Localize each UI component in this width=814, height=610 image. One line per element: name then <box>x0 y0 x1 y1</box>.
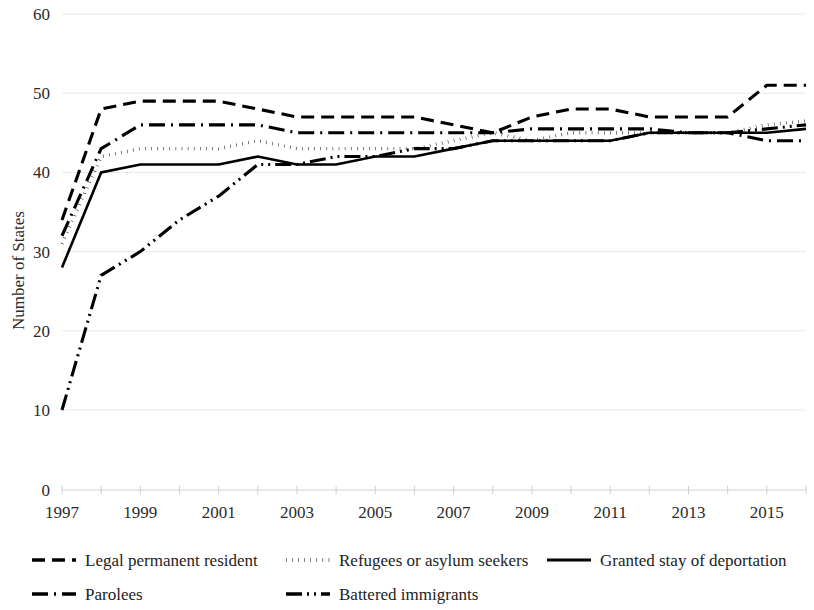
legend-label: Refugees or asylum seekers <box>339 551 528 570</box>
series-line-granted-stay-of-deportation <box>62 129 806 268</box>
gridlines <box>62 14 806 410</box>
x-tick-label-1999: 1999 <box>123 503 157 522</box>
legend-label: Parolees <box>85 585 143 604</box>
y-tick-label-0: 0 <box>42 481 51 500</box>
y-tick-label-10: 10 <box>33 401 50 420</box>
legend-item-parolees[interactable]: Parolees <box>32 585 143 604</box>
x-tick-label-2005: 2005 <box>358 503 392 522</box>
legend-item-refugees-or-asylum-seekers[interactable]: Refugees or asylum seekers <box>286 551 528 570</box>
y-tick-label-30: 30 <box>33 243 50 262</box>
legend-label: Granted stay of deportation <box>600 551 787 570</box>
legend-item-legal-permanent-resident[interactable]: Legal permanent resident <box>32 551 258 570</box>
data-series-group <box>62 85 806 410</box>
x-tick-label-2007: 2007 <box>437 503 472 522</box>
y-tick-label-60: 60 <box>33 5 50 24</box>
legend-label: Battered immigrants <box>339 585 478 604</box>
line-chart: 1997199920012003200520072009201120132015… <box>0 0 814 610</box>
x-tick-label-2013: 2013 <box>672 503 706 522</box>
chart-canvas: 1997199920012003200520072009201120132015… <box>0 0 814 610</box>
legend-item-battered-immigrants[interactable]: Battered immigrants <box>286 585 478 604</box>
series-line-refugees-or-asylum-seekers <box>62 121 806 244</box>
y-axis-tick-labels: 0102030405060 <box>33 5 50 500</box>
x-tick-label-2001: 2001 <box>202 503 236 522</box>
x-tick-label-2003: 2003 <box>280 503 314 522</box>
y-axis-title: Number of States <box>9 211 28 330</box>
y-tick-label-20: 20 <box>33 322 50 341</box>
x-tick-label-1997: 1997 <box>45 503 80 522</box>
x-tick-label-2009: 2009 <box>515 503 549 522</box>
legend-item-granted-stay-of-deportation[interactable]: Granted stay of deportation <box>547 551 787 570</box>
y-tick-label-50: 50 <box>33 84 50 103</box>
series-line-battered-immigrants <box>62 125 806 410</box>
series-line-parolees <box>62 125 806 236</box>
y-axis-title-text: Number of States <box>9 211 28 330</box>
y-tick-label-40: 40 <box>33 163 50 182</box>
legend-label: Legal permanent resident <box>85 551 258 570</box>
x-tick-label-2011: 2011 <box>594 503 627 522</box>
legend: Legal permanent residentRefugees or asyl… <box>32 551 787 604</box>
x-axis: 1997199920012003200520072009201120132015 <box>45 486 806 522</box>
x-tick-label-2015: 2015 <box>750 503 784 522</box>
